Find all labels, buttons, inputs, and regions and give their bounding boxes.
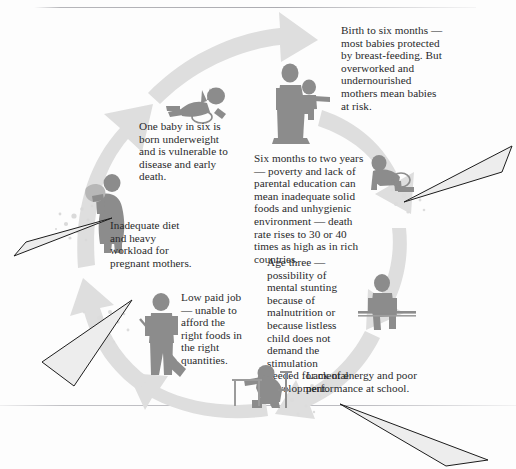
cycle-diagram-canvas: One baby in six is born underweight and …	[0, 0, 516, 469]
stage-text-pregnant-mother: Inadequate diet and heavy workload for p…	[110, 219, 214, 269]
pointer-left-upper	[8, 214, 116, 262]
pointer-bottom-right	[336, 400, 516, 469]
stage-text-birth-to-six-months: Birth to six months — most babies protec…	[341, 24, 463, 112]
seated-child-figure	[356, 272, 420, 334]
stage-text-six-months-to-two-years: Six months to two years — poverty and la…	[254, 152, 372, 265]
mother-holding-baby-figure	[272, 62, 334, 146]
pointer-right-upper	[398, 140, 516, 216]
stage-text-low-paid-job: Low paid job — unable to afford the righ…	[181, 291, 251, 367]
stage-text-underweight-birth: One baby in six is born underweight and …	[139, 120, 245, 183]
pointer-left-lower	[36, 296, 138, 392]
stage-text-school-performance: Lack of energy and poor performance at s…	[306, 369, 446, 394]
